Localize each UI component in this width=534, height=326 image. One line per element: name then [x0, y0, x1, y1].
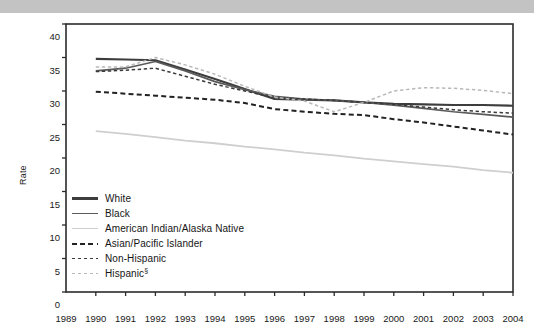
series-line-asian-pacific-islander	[96, 92, 513, 135]
legend-swatch-icon	[72, 224, 98, 234]
chart-figure: Rate 0510152025303540 198919901991199219…	[0, 13, 534, 326]
series-line-non-hispanic	[96, 68, 513, 113]
legend-item[interactable]: Asian/Pacific Islander	[72, 236, 244, 251]
legend-item[interactable]: White	[72, 191, 244, 206]
legend-item[interactable]: American Indian/Alaska Native	[72, 221, 244, 236]
legend-item-label: American Indian/Alaska Native	[105, 223, 244, 234]
series-line-black	[96, 62, 513, 118]
top-gray-band	[0, 0, 534, 13]
legend-item-label: Black	[105, 208, 130, 219]
legend-footnote-marker: §	[144, 267, 148, 274]
legend-swatch-icon	[72, 239, 98, 249]
series-line-hispanic	[96, 58, 513, 112]
legend-item-label: Non-Hispanic	[105, 253, 166, 264]
legend-item[interactable]: Non-Hispanic	[72, 251, 244, 266]
legend-swatch-icon	[72, 269, 98, 279]
legend-swatch-icon	[72, 194, 98, 204]
legend-item[interactable]: Hispanic§	[72, 266, 244, 281]
series-line-american-indian-alaska-native	[96, 131, 513, 173]
legend-swatch-icon	[72, 209, 98, 219]
chart-legend: WhiteBlackAmerican Indian/Alaska NativeA…	[72, 191, 244, 281]
legend-item-label: White	[105, 193, 131, 204]
legend-swatch-icon	[72, 254, 98, 264]
legend-item-label: Asian/Pacific Islander	[105, 238, 203, 249]
legend-item[interactable]: Black	[72, 206, 244, 221]
legend-item-label: Hispanic§	[105, 267, 148, 279]
